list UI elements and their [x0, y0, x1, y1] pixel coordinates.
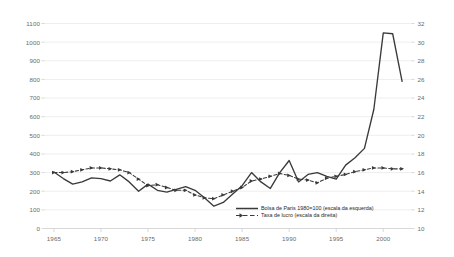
left-axis-tick-label: 1100	[8, 20, 40, 27]
right-axis-tick-label: 16	[418, 169, 448, 176]
right-axis-tick-label: 30	[418, 39, 448, 46]
legend-item-bolsa: Bolsa de Paris 1980=100 (escala da esque…	[236, 205, 374, 212]
left-axis-tick-label: 900	[8, 57, 40, 64]
x-axis-tick-label: 1965	[40, 235, 68, 242]
x-axis-tick-label: 1975	[134, 235, 162, 242]
legend-label-taxa: Taxa de lucro (escala da direita)	[261, 212, 337, 219]
x-axis-tick-label: 1985	[228, 235, 256, 242]
x-axis-tick-label: 1970	[87, 235, 115, 242]
right-axis-tick-label: 20	[418, 132, 448, 139]
right-axis-tickmarks	[412, 24, 415, 229]
series-2-path	[52, 166, 404, 201]
right-axis-tick-label: 24	[418, 94, 448, 101]
x-axis-tickmarks	[45, 229, 412, 233]
right-axis-tick-label: 18	[418, 150, 448, 157]
left-axis-tickmarks	[42, 24, 45, 229]
right-axis-tick-label: 14	[418, 188, 448, 195]
left-axis-tick-label: 200	[8, 188, 40, 195]
left-axis-tick-label: 1000	[8, 39, 40, 46]
legend-line-solid-icon	[236, 205, 258, 212]
left-axis-tick-label: 0	[8, 225, 40, 232]
series-1-path	[54, 33, 402, 206]
left-axis-tick-label: 300	[8, 169, 40, 176]
x-axis-tick-label: 1990	[275, 235, 303, 242]
x-axis-tick-label: 1995	[322, 235, 350, 242]
legend-label-bolsa: Bolsa de Paris 1980=100 (escala da esque…	[261, 205, 374, 212]
x-axis-tick-label: 2000	[369, 235, 397, 242]
left-axis-tick-label: 600	[8, 113, 40, 120]
left-axis-tick-label: 100	[8, 206, 40, 213]
chart-legend: Bolsa de Paris 1980=100 (escala da esque…	[236, 205, 374, 220]
right-axis-tick-label: 28	[418, 57, 448, 64]
legend-line-dashed-marker-icon	[236, 212, 258, 219]
left-axis-tick-label: 500	[8, 132, 40, 139]
chart-plot-area	[0, 0, 454, 257]
data-series-layer	[52, 33, 404, 206]
x-axis-tick-label: 1980	[181, 235, 209, 242]
left-axis-tick-label: 400	[8, 150, 40, 157]
right-axis-tick-label: 12	[418, 206, 448, 213]
right-axis-tick-label: 10	[418, 225, 448, 232]
left-axis-tick-label: 800	[8, 76, 40, 83]
chart-container: 0100200300400500600700800900100011001012…	[0, 0, 454, 257]
right-axis-tick-label: 26	[418, 76, 448, 83]
right-axis-tick-label: 32	[418, 20, 448, 27]
right-axis-tick-label: 22	[418, 113, 448, 120]
legend-item-taxa: Taxa de lucro (escala da direita)	[236, 212, 374, 219]
left-axis-tick-label: 700	[8, 94, 40, 101]
